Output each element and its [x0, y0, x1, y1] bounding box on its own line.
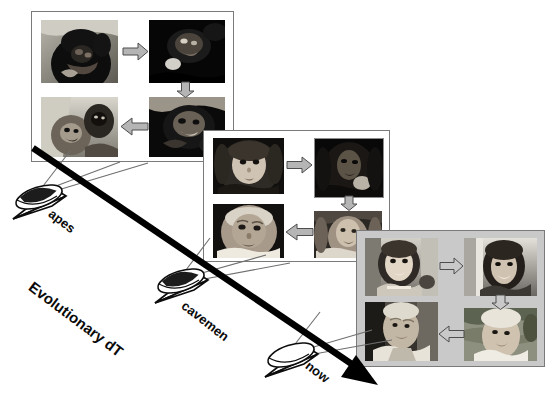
viewpoint-cone-cavemen — [150, 260, 212, 312]
diagram-canvas: apes cavemen now Evolutionary dT — [0, 0, 557, 406]
